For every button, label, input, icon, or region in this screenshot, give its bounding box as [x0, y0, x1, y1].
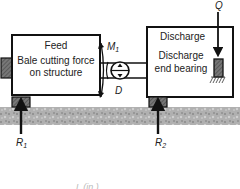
ground-foundation	[0, 107, 240, 125]
discharge-bearing-icon	[214, 59, 223, 77]
axis-label: L (in.)	[76, 182, 99, 189]
moment-label: M1	[107, 41, 119, 55]
feed-title: Feed	[12, 40, 100, 51]
load-label: Q	[215, 0, 223, 11]
feed-line-2: on structure	[12, 67, 100, 78]
discharge-line-2: end bearing	[150, 63, 212, 74]
left-shaft-stub	[1, 58, 12, 78]
feed-line-1: Bale cutting force	[12, 55, 100, 66]
diameter-label: D	[115, 85, 122, 96]
reaction-2-label: R2	[155, 137, 166, 151]
discharge-title: Discharge	[160, 31, 205, 42]
discharge-line-1: Discharge	[150, 50, 212, 61]
moment-arrow-icon	[101, 43, 104, 97]
reaction-1-label: R1	[16, 137, 27, 151]
